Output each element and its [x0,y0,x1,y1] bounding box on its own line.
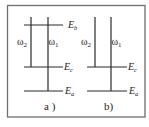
omega1-label-b: ω1 [112,36,123,49]
ea-label-a: Ea [64,85,74,97]
ec-label-a: Ec [63,61,73,73]
figure-border [8,6,146,118]
eb-label-a: Eb [67,19,78,31]
panel-b: ω2 ω1 Ec Ea b) [81,17,138,113]
ec-label-b: Ec [127,61,137,73]
ea-label-b: Ea [128,85,138,97]
omega1-label-a: ω1 [49,36,60,49]
caption-b: b) [104,100,114,113]
omega2-label-b: ω2 [81,36,92,49]
caption-a: a ) [44,100,56,113]
omega2-label-a: ω2 [17,36,28,49]
panel-a: ω2 ω1 Eb Ec Ea a ) [17,17,78,113]
energy-level-diagram: ω2 ω1 Eb Ec Ea a ) ω2 ω1 Ec Ea b) [0,0,149,127]
